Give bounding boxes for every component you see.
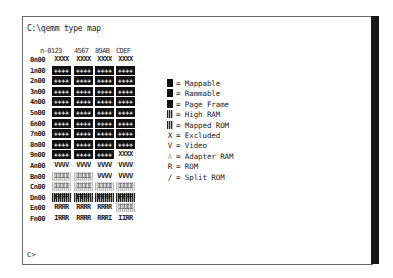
map-cell: ++++ <box>116 129 135 138</box>
map-cell: ++++ <box>95 97 114 106</box>
legend-label: = ROM <box>176 162 198 171</box>
legend-block-icon <box>167 89 173 97</box>
map-cell: RRRR <box>74 203 93 212</box>
legend-item: X= Excluded <box>167 131 220 140</box>
legend-label: = Adapter RAM <box>176 152 233 161</box>
legend-symbol: R <box>167 162 173 171</box>
column-header: n-0123 <box>40 47 62 55</box>
map-cell: FFFF <box>116 193 135 202</box>
legend-label: = Excluded <box>176 131 220 140</box>
map-cell: VVVV <box>116 161 135 170</box>
legend-item: = Mapped ROM <box>167 121 229 130</box>
map-cell: VVVV <box>95 172 114 181</box>
map-cell: IIII <box>52 172 71 181</box>
map-cell: XXXX <box>52 55 71 64</box>
legend-label: = High RAM <box>176 110 220 119</box>
map-cell: ++++ <box>74 76 93 85</box>
row-label: 8n00 <box>30 141 45 149</box>
legend-symbol: / <box>167 173 173 182</box>
legend-bar-icon <box>167 110 173 118</box>
map-cell: ++++ <box>74 97 93 106</box>
map-cell: ++++ <box>95 87 114 96</box>
map-cell: ++++ <box>74 87 93 96</box>
legend-item: R= ROM <box>167 162 198 171</box>
map-cell: ++++ <box>52 87 71 96</box>
command-prompt[interactable]: C> <box>27 251 35 259</box>
row-label: 4n00 <box>30 98 45 106</box>
map-cell: ++++ <box>116 76 135 85</box>
map-cell: VVVV <box>116 172 135 181</box>
legend-label: = Split ROM <box>176 173 225 182</box>
legend-block-icon <box>167 100 173 108</box>
row-label: An00 <box>30 162 45 170</box>
map-cell: FFFF <box>95 193 114 202</box>
map-cell: ++++ <box>52 66 71 75</box>
map-cell: XXXX <box>74 55 93 64</box>
row-label: Fn00 <box>30 215 45 223</box>
legend-item: A= Adapter RAM <box>167 152 233 161</box>
map-cell: IIII <box>74 172 93 181</box>
map-cell: ++++ <box>74 129 93 138</box>
legend-item: = High RAM <box>167 110 220 119</box>
map-cell: ++++ <box>52 108 71 117</box>
row-label: Dn00 <box>30 194 45 202</box>
map-cell: ++++ <box>74 140 93 149</box>
map-cell: ++++ <box>95 108 114 117</box>
map-cell: ++++ <box>116 66 135 75</box>
map-cell: ++++ <box>116 119 135 128</box>
map-cell: ++++ <box>52 140 71 149</box>
map-cell: RRRR <box>95 203 114 212</box>
legend-item: V= Video <box>167 141 207 150</box>
map-cell: ++++ <box>95 76 114 85</box>
map-cell: VVVV <box>95 161 114 170</box>
column-header: 89AB <box>95 47 109 55</box>
map-cell: RRRI <box>95 214 114 223</box>
legend-label: = Mapped ROM <box>176 121 229 130</box>
map-cell: ++++ <box>74 119 93 128</box>
map-cell: ++++ <box>95 129 114 138</box>
legend-symbol: A <box>167 152 173 161</box>
row-label: 0n00 <box>30 56 45 64</box>
map-cell: XXXX <box>116 55 135 64</box>
map-cell: ++++ <box>116 108 135 117</box>
map-cell: IIII <box>74 182 93 191</box>
map-cell: ++++ <box>74 66 93 75</box>
map-cell: FFFF <box>52 193 71 202</box>
map-cell: ++++ <box>95 140 114 149</box>
row-label: 1n00 <box>30 67 45 75</box>
map-cell: IIRR <box>116 214 135 223</box>
row-label: 7n00 <box>30 130 45 138</box>
map-cell: ++++ <box>52 150 71 159</box>
legend-item: /= Split ROM <box>167 173 225 182</box>
legend-block-icon <box>167 79 173 87</box>
map-cell: XXXX <box>95 55 114 64</box>
legend-symbol: X <box>167 131 173 140</box>
row-label: 2n00 <box>30 77 45 85</box>
map-cell: ++++ <box>95 150 114 159</box>
legend-item: = Rammable <box>167 89 220 98</box>
row-label: 9n00 <box>30 151 45 159</box>
map-cell: VVVV <box>52 161 71 170</box>
legend-label: = Rammable <box>176 89 220 98</box>
window-edge-bar <box>371 16 379 264</box>
map-cell: IIII <box>116 182 135 191</box>
legend-symbol: V <box>167 141 173 150</box>
row-label: Cn00 <box>30 183 45 191</box>
map-cell: ++++ <box>95 119 114 128</box>
map-cell: IRRR <box>52 214 71 223</box>
legend-label: = Page Frame <box>176 100 229 109</box>
legend-label: = Mappable <box>176 79 220 88</box>
row-label: 3n00 <box>30 88 45 96</box>
row-label: En00 <box>30 204 45 212</box>
map-cell: IIII <box>52 182 71 191</box>
map-cell: ++++ <box>116 87 135 96</box>
command-line: C:\qemm type map <box>27 24 101 33</box>
column-header: CDEF <box>116 47 130 55</box>
row-label: 5n00 <box>30 109 45 117</box>
map-cell: ++++ <box>52 119 71 128</box>
map-cell: XXXX <box>116 150 135 159</box>
map-cell: RRRR <box>74 214 93 223</box>
column-header: 4567 <box>74 47 88 55</box>
map-cell: ++++ <box>95 66 114 75</box>
map-cell: ++++ <box>52 76 71 85</box>
